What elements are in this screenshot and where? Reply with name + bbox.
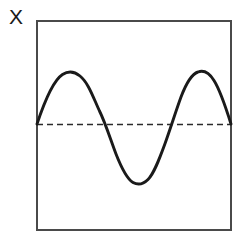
plot-frame <box>37 21 231 230</box>
plot-area <box>0 0 241 240</box>
figure-root: X <box>0 0 241 240</box>
sine-curve <box>37 71 231 184</box>
